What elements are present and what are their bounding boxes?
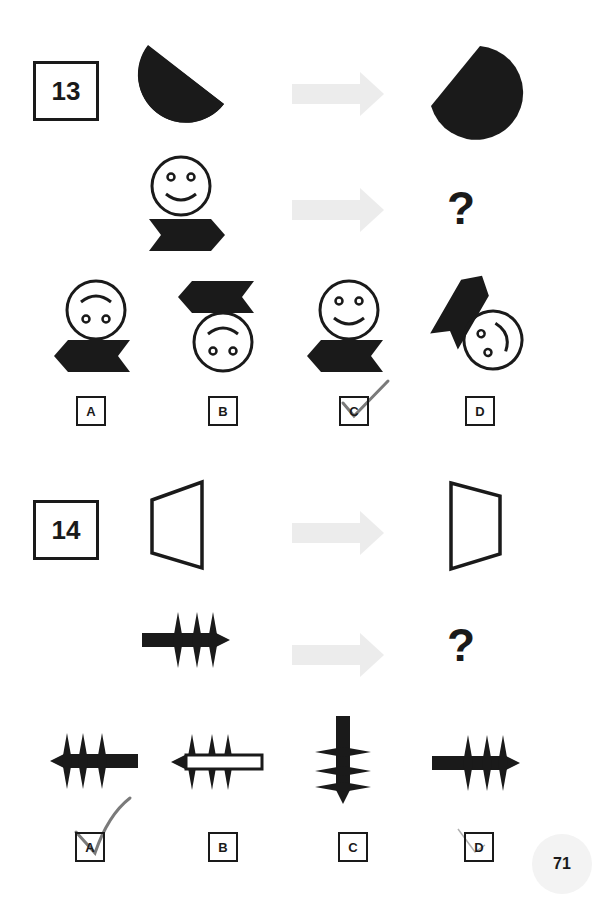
q14-option-b-figure (171, 734, 262, 790)
q14-option-a-figure (50, 733, 138, 789)
q14-question-mark: ? (447, 622, 475, 668)
q13-half-circle-right-shape (431, 46, 523, 140)
q13-half-circle-left-shape (138, 46, 224, 123)
q13-option-b[interactable]: B (208, 396, 238, 426)
q13-option-a[interactable]: A (76, 396, 106, 426)
q13-option-b-figure (178, 281, 254, 371)
q13-question-mark: ? (447, 185, 475, 231)
q14-arrow-1 (292, 511, 384, 555)
q14-option-d[interactable]: D (464, 832, 494, 862)
q14-option-c-figure (315, 716, 371, 804)
q14-option-d-figure (432, 735, 520, 791)
page-number: 71 (532, 834, 592, 894)
q13-option-a-figure (54, 281, 130, 372)
worksheet-figures (0, 0, 593, 899)
q13-option-c-figure (307, 281, 383, 372)
q13-option-d-figure (430, 268, 530, 378)
q14-trapezoid-right (451, 483, 500, 569)
q13-arrow-1 (292, 72, 384, 116)
q13-option-c[interactable]: C (339, 396, 369, 426)
q14-trapezoid-left (152, 482, 202, 568)
q14-option-b[interactable]: B (208, 832, 238, 862)
q13-chevron-right (149, 219, 225, 251)
q14-arrow-2 (292, 633, 384, 677)
q14-spike-bar-right (142, 612, 230, 668)
q13-arrow-2 (292, 188, 384, 232)
q14-option-a[interactable]: A (75, 832, 105, 862)
question-number-13: 13 (33, 61, 99, 121)
q14-option-c[interactable]: C (338, 832, 368, 862)
q13-option-d[interactable]: D (465, 396, 495, 426)
question-number-14: 14 (33, 500, 99, 560)
q13-smiley-face (152, 157, 210, 215)
